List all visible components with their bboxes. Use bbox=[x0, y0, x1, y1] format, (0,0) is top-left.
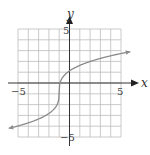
coordinate-plane: y x −5 5 5 −5 bbox=[0, 0, 150, 155]
x-axis-arrow-icon bbox=[131, 80, 139, 87]
x-axis-label: x bbox=[141, 76, 148, 90]
x-max-tick-label: 5 bbox=[117, 86, 123, 97]
y-max-tick-label: 5 bbox=[63, 25, 69, 36]
graph-figure: y x −5 5 5 −5 bbox=[0, 0, 150, 155]
y-axis-label: y bbox=[66, 7, 74, 21]
curve-arrow-icon bbox=[125, 50, 130, 54]
x-min-tick-label: −5 bbox=[11, 86, 26, 97]
y-min-tick-label: −5 bbox=[60, 132, 75, 143]
